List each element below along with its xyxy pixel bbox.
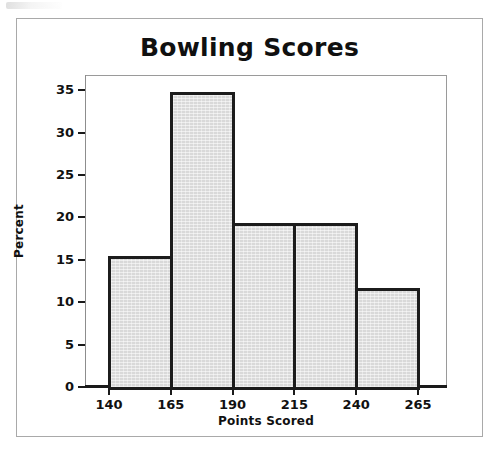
y-tick-25 (78, 174, 85, 176)
y-tick-label-20: 20 (40, 210, 74, 223)
y-tick-20 (78, 216, 85, 218)
bar-190-215 (232, 223, 297, 390)
x-tick-label-140: 140 (85, 397, 133, 412)
x-tick-label-265: 265 (394, 397, 442, 412)
y-tick-30 (78, 132, 85, 134)
chart-title: Bowling Scores (16, 33, 483, 62)
x-tick-label-215: 215 (270, 397, 318, 412)
bar-165-190 (170, 92, 235, 390)
x-tick-label-190: 190 (209, 397, 257, 412)
y-axis-title: Percent (12, 196, 26, 266)
y-tick-15 (78, 259, 85, 261)
y-tick-label-25: 25 (40, 168, 74, 181)
y-tick-10 (78, 301, 85, 303)
y-tick-5 (78, 344, 85, 346)
bar-215-240 (293, 223, 358, 390)
y-tick-label-35: 35 (40, 83, 74, 96)
y-tick-label-10: 10 (40, 295, 74, 308)
y-tick-label-5: 5 (40, 338, 74, 351)
y-tick-35 (78, 89, 85, 91)
y-axis-spine (85, 75, 86, 388)
x-tick-label-165: 165 (147, 397, 195, 412)
y-tick-label-0: 0 (40, 380, 74, 393)
y-tick-label-15: 15 (40, 253, 74, 266)
scan-artifact-smudge (6, 2, 62, 9)
x-tick-label-240: 240 (332, 397, 380, 412)
x-axis-title: Points Scored (85, 414, 447, 428)
bar-240-265 (355, 288, 420, 390)
y-tick-label-30: 30 (40, 126, 74, 139)
y-tick-0 (78, 386, 85, 388)
bar-140-165 (108, 256, 173, 390)
